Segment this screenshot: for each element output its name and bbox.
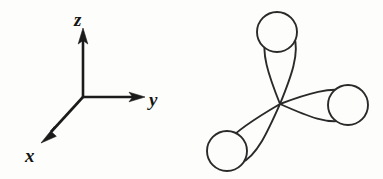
figure-canvas: z y x [0,0,383,179]
coordinate-axes-group: z y x [24,9,158,166]
orbital-cap-lower-left [207,131,247,171]
axis-x-line [51,97,83,132]
axis-z [78,28,88,97]
orbital-cap-right [328,85,368,125]
axis-label-z: z [73,9,82,30]
figure-svg: z y x [0,0,383,179]
orbital-cap-up [257,12,297,52]
axis-label-x: x [24,145,35,166]
axis-x [41,97,83,143]
axis-label-y: y [147,89,158,110]
orbital-diagram-group [207,12,368,171]
axis-y [83,92,145,102]
